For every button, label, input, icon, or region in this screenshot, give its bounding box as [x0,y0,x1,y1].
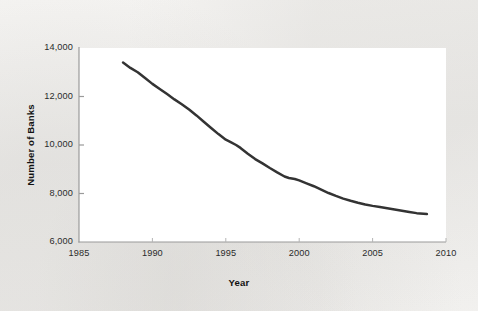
x-tick-label: 2010 [436,249,457,258]
x-tick-label: 2005 [362,249,383,258]
x-tick-label: 1995 [215,249,236,258]
x-tick-label: 1990 [142,249,163,258]
axis-group [78,47,446,243]
y-axis-title: Number of Banks [26,104,36,186]
x-tick-label: 1985 [69,249,90,258]
y-tick-label: 6,000 [40,237,73,246]
y-axis-ticks [79,97,84,194]
y-tick-label: 14,000 [40,43,73,52]
x-axis-title: Year [0,278,478,288]
y-tick-label: 10,000 [40,140,73,149]
data-series-group [123,63,427,215]
y-tick-label: 12,000 [40,92,73,101]
y-tick-label: 8,000 [40,189,73,198]
chart-figure: 14,00012,00010,0008,0006,000 19851990199… [0,0,478,311]
series-line-number-of-banks [123,63,427,215]
x-tick-label: 2000 [289,249,310,258]
